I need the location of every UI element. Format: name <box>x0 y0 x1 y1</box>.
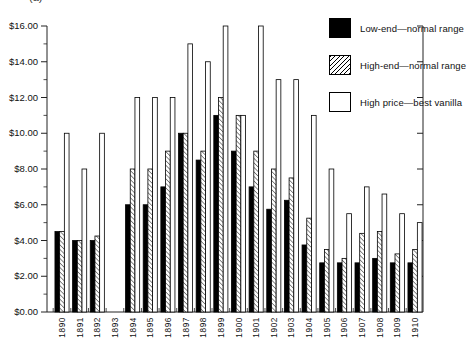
bar-1892-white-outline <box>100 133 105 312</box>
y-tick-label: $8.00 <box>14 163 38 174</box>
x-tick-label: 1909 <box>393 317 402 338</box>
bar-1907-solid-black <box>355 263 360 312</box>
bar-1903-solid-black <box>284 200 289 312</box>
x-tick-label: 1901 <box>252 317 261 338</box>
x-tick-label: 1898 <box>199 317 208 338</box>
bar-1891-diagonal-hatch <box>77 241 82 313</box>
bar-1898-diagonal-hatch <box>201 151 206 312</box>
figure-label: (a) <box>29 0 42 3</box>
bar-1897-white-outline <box>188 44 193 312</box>
legend-label: High price—best vanilla <box>360 97 462 108</box>
bar-1908-white-outline <box>382 194 387 312</box>
bar-1904-diagonal-hatch <box>307 218 312 312</box>
bar-1899-solid-black <box>214 115 219 312</box>
bar-1906-white-outline <box>347 214 352 312</box>
bar-1902-diagonal-hatch <box>271 169 276 312</box>
legend-item-low-end: Low-end—normal range <box>329 18 466 38</box>
y-tick-label: $12.00 <box>9 92 38 103</box>
bar-1892-solid-black <box>90 241 95 313</box>
bar-1894-diagonal-hatch <box>130 169 135 312</box>
bar-1900-solid-black <box>231 151 236 312</box>
bar-1900-diagonal-hatch <box>236 115 241 312</box>
x-tick-label: 1890 <box>58 317 67 338</box>
x-tick-label: 1904 <box>305 317 314 338</box>
bar-1900-white-outline <box>241 115 246 312</box>
legend-item-best-vanilla: High price—best vanilla <box>329 92 466 112</box>
bar-1899-white-outline <box>223 26 228 312</box>
bar-1910-solid-black <box>408 263 413 312</box>
y-tick-label: $0.00 <box>14 306 38 317</box>
x-tick-label: 1900 <box>235 317 244 338</box>
x-tick-label: 1894 <box>129 317 138 338</box>
bar-1896-solid-black <box>161 187 166 312</box>
y-tick-label: $2.00 <box>14 270 38 281</box>
x-tick-label: 1903 <box>287 317 296 338</box>
bar-1890-white-outline <box>64 133 69 312</box>
bar-1905-diagonal-hatch <box>324 249 329 312</box>
y-tick-label: $4.00 <box>14 235 38 246</box>
bar-1905-white-outline <box>329 169 334 312</box>
y-tick-label: $16.00 <box>9 20 38 31</box>
bar-1905-solid-black <box>320 263 325 312</box>
bar-1903-white-outline <box>294 80 299 312</box>
bar-1891-white-outline <box>82 169 87 312</box>
bar-1906-solid-black <box>337 263 342 312</box>
bar-1901-solid-black <box>249 187 254 312</box>
x-tick-label: 1908 <box>376 317 385 338</box>
bar-1895-solid-black <box>143 205 148 312</box>
y-tick-label: $14.00 <box>9 56 38 67</box>
bar-1895-white-outline <box>153 98 158 313</box>
bar-1904-white-outline <box>311 115 316 312</box>
x-tick-label: 1895 <box>146 317 155 338</box>
bar-1895-diagonal-hatch <box>148 169 153 312</box>
bar-1897-solid-black <box>179 133 184 312</box>
bar-1890-solid-black <box>55 232 60 312</box>
bar-1890-diagonal-hatch <box>60 232 65 312</box>
x-tick-label: 1897 <box>182 317 191 338</box>
x-tick-label: 1906 <box>340 317 349 338</box>
legend-label: Low-end—normal range <box>360 23 464 34</box>
y-tick-label: $10.00 <box>9 127 38 138</box>
x-tick-label: 1892 <box>93 317 102 338</box>
x-tick-label: 1905 <box>323 317 332 338</box>
bar-1901-white-outline <box>259 26 264 312</box>
x-tick-label: 1910 <box>411 317 420 338</box>
bar-1910-white-outline <box>417 223 422 312</box>
bar-1898-white-outline <box>206 62 211 312</box>
bar-1896-white-outline <box>170 98 175 313</box>
bar-1908-diagonal-hatch <box>377 232 382 312</box>
bar-1906-diagonal-hatch <box>342 258 347 312</box>
bar-1909-solid-black <box>390 263 395 312</box>
bar-1896-diagonal-hatch <box>166 151 171 312</box>
bar-1902-solid-black <box>267 209 272 312</box>
y-tick-label: $6.00 <box>14 199 38 210</box>
legend-label: High-end—normal range <box>360 60 466 71</box>
x-tick-label: 1893 <box>111 317 120 338</box>
bar-1892-diagonal-hatch <box>95 236 100 312</box>
legend-item-high-end: High-end—normal range <box>329 55 466 75</box>
bar-1898-solid-black <box>196 160 201 312</box>
bar-1909-diagonal-hatch <box>395 254 400 312</box>
legend: Low-end—normal range High-end—normal ran… <box>329 18 466 129</box>
bar-1903-diagonal-hatch <box>289 178 294 312</box>
bar-1902-white-outline <box>276 80 281 312</box>
legend-swatch-diagonal-hatch <box>329 55 351 75</box>
legend-swatch-white-outline <box>329 92 351 112</box>
bar-1909-white-outline <box>400 214 405 312</box>
x-tick-label: 1896 <box>164 317 173 338</box>
x-tick-label: 1902 <box>270 317 279 338</box>
x-tick-label: 1907 <box>358 317 367 338</box>
bar-1908-solid-black <box>373 258 378 312</box>
bar-1899-diagonal-hatch <box>219 98 224 313</box>
bar-1901-diagonal-hatch <box>254 151 259 312</box>
bar-1897-diagonal-hatch <box>183 133 188 312</box>
x-tick-label: 1891 <box>76 317 85 338</box>
bar-1904-solid-black <box>302 245 307 312</box>
bar-1910-diagonal-hatch <box>413 249 418 312</box>
legend-swatch-solid-black <box>329 18 351 38</box>
bar-1907-diagonal-hatch <box>360 233 365 312</box>
bar-1894-white-outline <box>135 98 140 313</box>
bar-1891-solid-black <box>73 241 78 313</box>
bar-1894-solid-black <box>126 205 131 312</box>
